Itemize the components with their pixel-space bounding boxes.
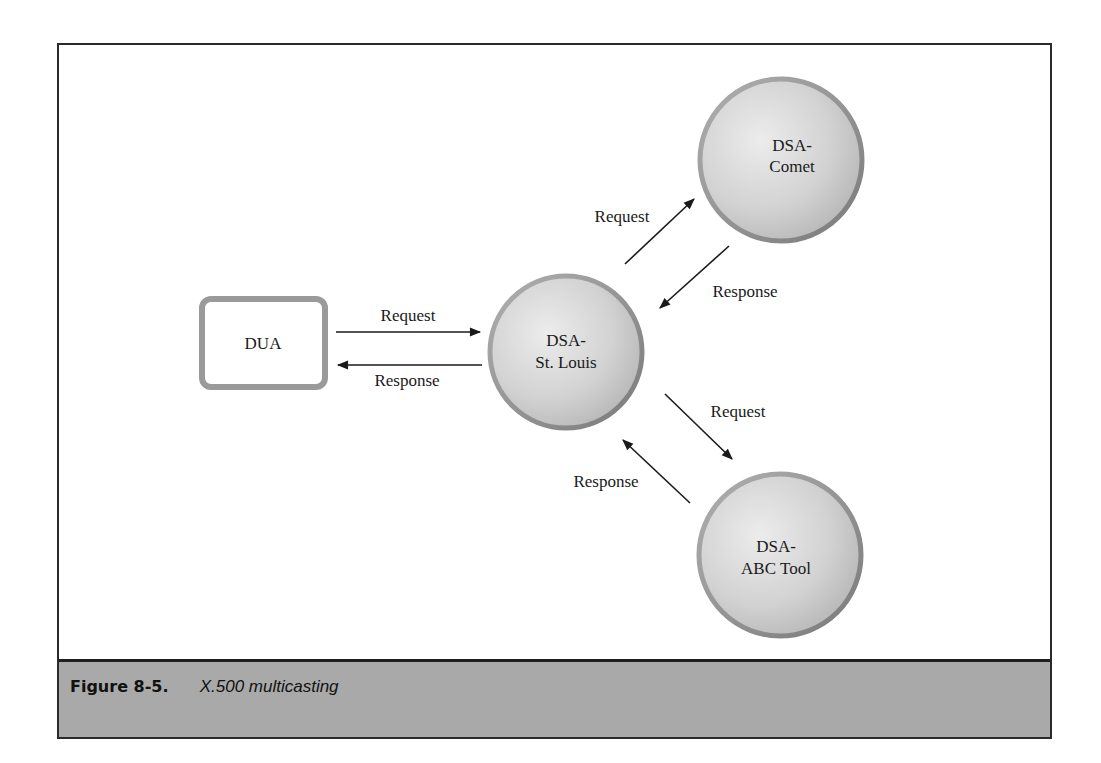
- st-louis-line2: St. Louis: [535, 353, 596, 372]
- edge-dua-stlouis: Request Response: [336, 306, 482, 390]
- edge-label-response: Response: [573, 472, 638, 491]
- dua-label: DUA: [245, 334, 283, 353]
- dsa-st-louis-node: DSA- St. Louis: [488, 274, 644, 430]
- edge-label-response: Response: [712, 282, 777, 301]
- comet-line2: Comet: [769, 157, 815, 176]
- st-louis-line1: DSA-: [546, 331, 586, 350]
- abc-tool-line1: DSA-: [756, 537, 796, 556]
- abc-tool-line2: ABC Tool: [741, 559, 811, 578]
- edge-label-request: Request: [711, 402, 766, 421]
- edge-label-request: Request: [595, 207, 650, 226]
- comet-line1: DSA-: [772, 136, 812, 155]
- diagram-canvas: DUA Request Response DSA- St. Louis DSA-…: [0, 0, 1101, 763]
- dsa-abc-tool-node: DSA- ABC Tool: [697, 472, 863, 638]
- dua-node: DUA: [202, 299, 325, 387]
- dsa-comet-node: DSA- Comet: [698, 77, 864, 243]
- edge-label-response: Response: [374, 371, 439, 390]
- edge-label-request: Request: [381, 306, 436, 325]
